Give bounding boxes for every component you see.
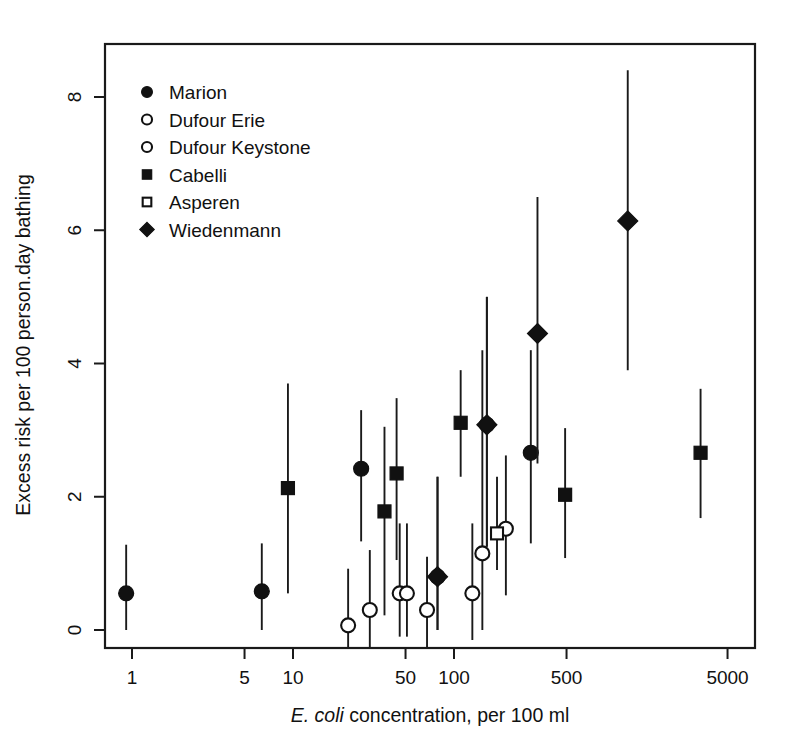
marker-open-square: [143, 198, 152, 207]
x-tick-label: 1: [127, 667, 138, 688]
x-tick-label: 100: [438, 667, 470, 688]
x-tick-label: 50: [395, 667, 416, 688]
y-tick-label: 4: [64, 358, 85, 369]
x-tick-label: 5: [239, 667, 250, 688]
legend-item-label: Wiedenmann: [169, 220, 281, 241]
marker-open-circle: [420, 603, 434, 617]
legend-item-label: Dufour Keystone: [169, 137, 311, 158]
legend-item-label: Dufour Erie: [169, 110, 265, 131]
marker-filled-square: [142, 170, 151, 179]
marker-open-square: [491, 527, 503, 539]
legend-item-label: Asperen: [169, 192, 240, 213]
marker-filled-circle: [523, 445, 538, 460]
marker-filled-square: [694, 446, 707, 459]
marker-filled-square: [559, 488, 572, 501]
marker-open-circle: [142, 114, 152, 124]
y-axis-title: Excess risk per 100 person.day bathing: [12, 174, 34, 515]
x-axis-title-italic: E. coli: [291, 704, 345, 726]
marker-filled-circle: [254, 584, 269, 599]
y-tick-label: 0: [64, 625, 85, 636]
marker-filled-square: [281, 482, 294, 495]
x-axis-title: E. coli concentration, per 100 ml: [291, 704, 570, 726]
x-tick-label: 5000: [706, 667, 748, 688]
x-axis-title-rest: concentration, per 100 ml: [344, 704, 569, 726]
marker-filled-circle: [142, 87, 153, 98]
scatter-plot-figure: 1510501005005000 02468 MarionDufour Erie…: [0, 0, 791, 753]
y-tick-label: 8: [64, 92, 85, 103]
marker-filled-square: [378, 505, 391, 518]
marker-open-circle: [400, 586, 414, 600]
y-tick-label: 2: [64, 491, 85, 502]
marker-open-circle: [363, 603, 377, 617]
plot-canvas: 1510501005005000 02468 MarionDufour Erie…: [0, 0, 791, 753]
y-tick-label: 6: [64, 225, 85, 236]
figure-background: [0, 0, 791, 753]
marker-filled-square: [454, 416, 467, 429]
legend-item-label: Cabelli: [169, 165, 227, 186]
marker-open-circle: [475, 546, 489, 560]
marker-open-circle: [341, 618, 355, 632]
marker-filled-circle: [354, 461, 369, 476]
marker-open-circle: [142, 142, 152, 152]
x-tick-label: 10: [282, 667, 303, 688]
marker-filled-circle: [119, 586, 134, 601]
marker-open-circle: [465, 586, 479, 600]
legend-item-label: Marion: [169, 82, 227, 103]
x-tick-label: 500: [551, 667, 583, 688]
marker-filled-square: [390, 467, 403, 480]
